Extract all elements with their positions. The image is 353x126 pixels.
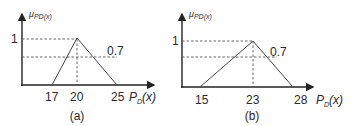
x-tick-left-b: 15 [195, 93, 209, 107]
x-tick-right-b: 28 [294, 93, 308, 107]
x-tick-right-a: 25 [111, 90, 125, 104]
x-tick-left-a: 17 [45, 90, 59, 104]
caption-b: (b) [245, 109, 260, 123]
alpha-label-a: 0.7 [107, 44, 124, 58]
fuzzy-membership-diagrams: μPD(x) 1 0.7 17 20 25 PD(x) (a) μPD(x) 1… [0, 0, 353, 126]
y-tick-1-b: 1 [172, 34, 179, 48]
x-axis-label-b: PD(x) [316, 93, 343, 108]
alpha-label-b: 0.7 [270, 45, 287, 59]
y-axis-label-b: μPD(x) [188, 9, 212, 21]
figure-a: μPD(x) 1 0.7 17 20 25 PD(x) (a) [11, 9, 156, 123]
y-axis-label-a: μPD(x) [28, 9, 52, 21]
figure-b: μPD(x) 1 0.7 15 23 28 PD(x) (b) [172, 9, 343, 123]
y-tick-1-a: 1 [11, 32, 18, 46]
x-tick-peak-a: 20 [70, 90, 84, 104]
x-tick-peak-b: 23 [246, 93, 260, 107]
x-axis-label-a: PD(x) [129, 90, 156, 105]
caption-a: (a) [70, 109, 85, 123]
